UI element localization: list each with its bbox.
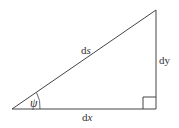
- vertical-side-label: dy: [159, 55, 170, 66]
- angle-psi-label: ψ: [30, 97, 37, 109]
- right-angle-marker: [143, 97, 156, 109]
- horizontal-side-label: dx: [82, 112, 92, 123]
- triangle-diagram: ds dy dx ψ: [0, 0, 179, 128]
- hypotenuse-label: ds: [81, 45, 91, 56]
- triangle-figure: [0, 0, 179, 128]
- triangle-outline: [12, 10, 156, 109]
